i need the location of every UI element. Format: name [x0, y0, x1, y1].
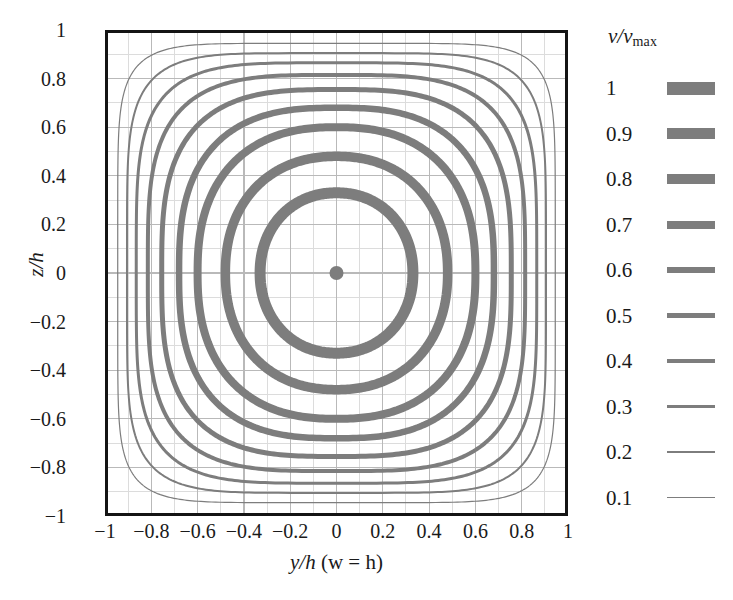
center-point-marker	[330, 266, 344, 280]
x-tick-label: 0.6	[463, 521, 488, 541]
legend-entry-label: 0.8	[606, 167, 658, 191]
legend-entry-swatch	[667, 497, 715, 498]
y-axis-title: z/h	[24, 205, 49, 325]
y-tick-label: −1	[45, 506, 66, 526]
y-tick-label: 0	[56, 263, 66, 283]
legend-title-subscript: max	[632, 34, 657, 49]
legend-title: v/vmax	[608, 24, 657, 50]
x-axis-title-var: y/h	[290, 550, 316, 574]
x-tick-label: 0.8	[509, 521, 534, 541]
legend-entry-swatch	[667, 128, 715, 139]
legend-entry-swatch	[667, 451, 715, 453]
x-tick-label: 0.2	[370, 521, 395, 541]
legend-entry: 0.5	[598, 304, 733, 328]
x-tick-label: 1	[563, 521, 573, 541]
legend-entry: 0.8	[598, 167, 733, 191]
legend-entry-label: 0.9	[606, 122, 658, 146]
x-tick-label: 0.4	[417, 521, 442, 541]
x-tick-label: −0.8	[133, 521, 169, 541]
x-tick-label: −0.4	[226, 521, 262, 541]
y-tick-label: 1	[56, 20, 66, 40]
x-tick-label: −1	[94, 521, 115, 541]
legend-entry-swatch	[667, 405, 715, 408]
legend-entry-swatch	[667, 174, 715, 184]
legend-entry-swatch	[667, 313, 715, 318]
legend-entry: 0.9	[598, 122, 733, 146]
contour-figure: −1−0.8−0.6−0.4−0.200.20.40.60.81 10.80.6…	[0, 0, 733, 600]
y-tick-label: −0.8	[30, 457, 66, 477]
legend-entry: 0.1	[598, 486, 733, 510]
y-tick-label: 0.8	[41, 69, 66, 89]
legend-entry-swatch	[667, 82, 715, 95]
y-tick-label: 0.6	[41, 117, 66, 137]
legend-entry-swatch	[667, 267, 715, 274]
x-axis-title: y/h (w = h)	[105, 550, 568, 575]
legend-entry: 1	[598, 76, 733, 100]
legend-entry-label: 0.4	[606, 349, 658, 373]
legend-entry-label: 0.1	[606, 486, 658, 510]
x-tick-label: −0.2	[272, 521, 308, 541]
legend-entry-label: 0.2	[606, 440, 658, 464]
legend-entry: 0.6	[598, 258, 733, 282]
legend-entry-label: 0.5	[606, 304, 658, 328]
legend-entry-label: 0.7	[606, 213, 658, 237]
y-tick-label: −0.4	[30, 360, 66, 380]
legend-entry-swatch	[667, 221, 715, 229]
legend-entry-swatch	[667, 359, 715, 363]
x-tick-label: 0	[332, 521, 342, 541]
legend-entry: 0.7	[598, 213, 733, 237]
y-tick-label: 0.4	[41, 166, 66, 186]
legend: v/vmax 10.90.80.70.60.50.40.30.20.1	[598, 24, 733, 524]
contour-center-dot	[330, 266, 344, 280]
legend-entry-label: 0.6	[606, 258, 658, 282]
plot-area	[105, 30, 568, 516]
contour-canvas	[105, 30, 568, 516]
legend-entry: 0.2	[598, 440, 733, 464]
legend-entry: 0.3	[598, 395, 733, 419]
y-tick-label: −0.6	[30, 409, 66, 429]
legend-entry-label: 1	[606, 76, 658, 100]
x-tick-label: −0.6	[179, 521, 215, 541]
legend-title-var: v/v	[608, 24, 632, 48]
legend-entry-label: 0.3	[606, 395, 658, 419]
x-axis-title-paren: (w = h)	[316, 550, 383, 574]
legend-entry: 0.4	[598, 349, 733, 373]
